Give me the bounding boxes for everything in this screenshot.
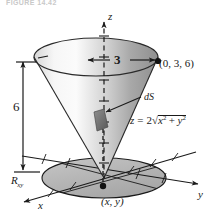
cone-group <box>34 38 158 178</box>
radicand-second-exp: 2 <box>182 114 185 121</box>
radicand-first-exp: 2 <box>163 114 166 121</box>
base-point-label: (x, y) <box>101 196 124 207</box>
radius-label: 3 <box>114 53 121 66</box>
height-label: 6 <box>13 100 20 113</box>
x-axis-label: x <box>38 200 43 211</box>
cone-equation-label: z=2√x2+y2 <box>130 114 186 126</box>
rim-point-label: (0, 3, 6) <box>159 58 194 69</box>
equation-lhs: z <box>130 114 134 126</box>
figure-container: FIGURE 14.42 <box>0 0 222 216</box>
z-axis-label: z <box>108 11 112 22</box>
projection-region-label: Rxy <box>11 175 24 186</box>
cone-diagram-svg <box>0 0 222 216</box>
cone-outer-surface <box>34 38 158 178</box>
y-axis-label: y <box>198 189 203 200</box>
radicand-group: x2+y2 <box>158 114 186 126</box>
surface-element-label: dS <box>144 92 154 102</box>
region-subscript: xy <box>17 181 23 188</box>
base-point-marker <box>100 183 106 189</box>
radicand-operator: + <box>169 114 175 126</box>
equation-relation: = <box>137 114 143 126</box>
